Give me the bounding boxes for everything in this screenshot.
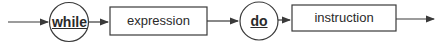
instruction-label: instruction [292,11,396,24]
while-keyword: while [50,15,89,29]
do-keyword: do [240,14,278,28]
expression-label: expression [110,14,207,27]
